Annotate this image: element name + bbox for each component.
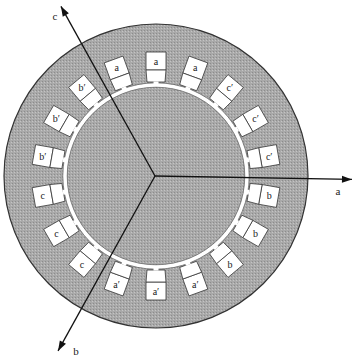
slot-label: c <box>80 259 85 270</box>
slot-label: a′ <box>113 279 120 290</box>
axis-label: a <box>336 185 341 197</box>
slot-label: b <box>253 228 258 239</box>
slot-label: a <box>154 56 159 67</box>
slot-label: a′ <box>153 286 160 297</box>
stator-winding-diagram: aac′c′c′bbba′a′a′cccb′b′b′a abc <box>0 0 357 360</box>
slot-label: b′ <box>53 113 60 124</box>
slot-label: b′ <box>78 82 85 93</box>
axis-label: c <box>52 10 57 22</box>
slot: a <box>146 52 166 85</box>
slot-label: a <box>114 62 119 73</box>
slot-label: c <box>41 190 46 201</box>
arrowhead-icon <box>342 176 352 183</box>
arrowhead-icon <box>58 340 66 350</box>
slot-opening <box>154 267 159 271</box>
slot-label: a′ <box>192 279 199 290</box>
slot-label: c′ <box>266 151 273 162</box>
slot-label: c′ <box>227 82 234 93</box>
coil-side-inner <box>146 70 166 82</box>
slot-label: b <box>267 190 272 201</box>
slot: a′ <box>146 267 166 300</box>
coil-side-inner <box>146 270 166 282</box>
slot-label: c <box>54 228 59 239</box>
arrowhead-icon <box>61 6 69 16</box>
slot-opening <box>154 82 159 86</box>
slot-label: c′ <box>252 113 259 124</box>
axis-label: b <box>73 345 79 357</box>
slot-label: b′ <box>39 151 46 162</box>
slot-label: a <box>193 62 198 73</box>
slot-label: b <box>227 259 232 270</box>
